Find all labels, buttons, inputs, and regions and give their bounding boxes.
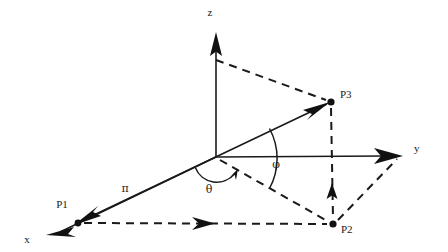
vector-P1-P3 [74,102,330,225]
dashed-line-P3-to-P2-vertical [331,108,333,218]
point-dot-P2 [329,220,336,227]
dashed-construction-lines [84,60,397,224]
coordinate-system-diagram: z y x P1 P2 P3 θ φ π [0,0,448,252]
vector-label-pi: π [121,182,128,195]
dashed-line-z-axis-to-P3 [216,60,326,100]
angle-arc-theta-path [195,168,235,183]
vector-P1-P3-line [75,104,327,224]
dashed-line-P2-to-y-axis [338,159,397,220]
angle-label-theta: θ [206,183,213,196]
angle-label-phi: φ [272,158,280,171]
diagram-canvas: z y x P1 P2 P3 θ φ π [0,0,448,252]
axis-x-arrowhead [46,227,76,237]
vector-arrowhead-to-P3 [303,102,330,120]
point-label-P3: P3 [340,88,352,100]
point-dot-P1 [75,220,82,227]
axis-label-y: y [414,142,420,154]
axis-z [210,32,222,157]
point-dot-P3 [327,98,334,105]
axis-y-line [216,156,385,157]
axis-y [216,148,403,164]
axis-label-z: z [208,6,213,18]
point-label-P1: P1 [56,198,68,210]
angle-arc-theta [195,168,238,183]
arrowhead-right-horizontal-dashed [192,217,215,230]
axis-label-x: x [24,233,30,245]
point-label-P2: P2 [341,223,353,235]
